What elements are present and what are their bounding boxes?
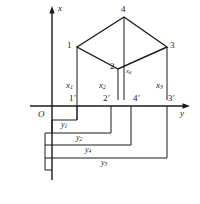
height-label-x1: x1: [66, 81, 73, 90]
prime-mark-1: ′: [74, 93, 76, 103]
dimension-label-y3-sub: 3: [105, 161, 108, 167]
prime-mark-3: ′: [173, 93, 175, 103]
origin-label: O: [38, 110, 45, 119]
dimension-label-y2: y2: [76, 134, 82, 143]
projection-label-3-prime: 3′: [168, 94, 174, 103]
prime-mark-4: ′: [138, 93, 140, 103]
x-axis-label: x: [58, 4, 62, 13]
vertex-label-3: 3: [170, 41, 175, 50]
dimension-label-y1-sub: 1: [65, 123, 68, 129]
height-label-x2-sub: 2: [103, 84, 106, 90]
vertex-label-2: 2: [110, 62, 115, 71]
vertex-label-4: 4: [121, 5, 126, 14]
parallelogram-shape: [77, 17, 167, 69]
height-label-x1-sub: 1: [70, 84, 73, 90]
x-axis-arrowhead: [49, 6, 54, 14]
height-label-x4-sub: 4: [129, 70, 131, 75]
height-label-x4: x4: [126, 68, 131, 76]
vertex-label-1: 1: [67, 41, 72, 50]
figure-container: x y O 1 4 3 2 1′ 2′ 4′ 3′ x1 x2 x4 x3 y1…: [0, 0, 200, 204]
height-label-x3-sub: 3: [160, 84, 163, 90]
dimension-label-y2-sub: 2: [80, 136, 83, 142]
dimension-label-y1: y1: [61, 121, 67, 130]
dimension-label-y3: y3: [101, 159, 107, 168]
height-label-x2: x2: [99, 81, 106, 90]
projection-label-1-prime: 1′: [69, 94, 75, 103]
prime-mark-2: ′: [108, 93, 110, 103]
projection-label-2-prime: 2′: [103, 94, 109, 103]
height-projection-lines: [77, 17, 167, 120]
dimension-label-y4: y4: [85, 146, 91, 155]
dimension-label-y4-sub: 4: [89, 148, 92, 154]
projection-label-4-prime: 4′: [133, 94, 139, 103]
height-label-x3: x3: [156, 81, 163, 90]
y-axis-label: y: [180, 109, 184, 118]
